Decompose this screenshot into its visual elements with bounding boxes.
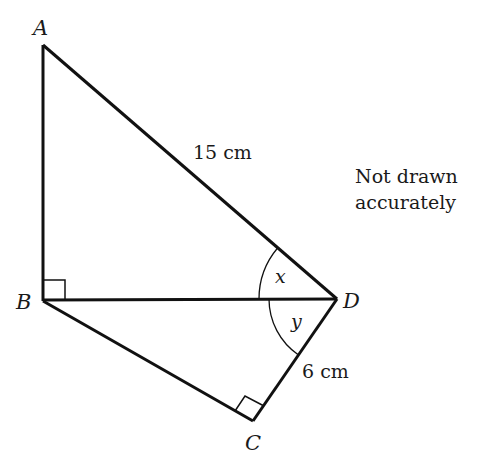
right-angle-mark-b <box>43 280 65 300</box>
geometry-figure <box>0 0 495 466</box>
measurement-cd: 6 cm <box>302 362 349 381</box>
point-label-c: C <box>245 433 261 454</box>
segment-ad <box>43 45 337 299</box>
note-line-2: accurately <box>355 189 458 215</box>
angle-label-x: x <box>275 267 286 286</box>
measurement-ad: 15 cm <box>193 143 252 162</box>
segment-bc <box>43 301 253 421</box>
point-label-d: D <box>343 291 360 312</box>
point-label-b: B <box>16 292 31 313</box>
note-line-1: Not drawn <box>355 163 458 189</box>
segment-bd <box>43 299 337 300</box>
not-drawn-accurately-note: Not drawn accurately <box>355 163 458 215</box>
point-label-a: A <box>33 18 48 39</box>
angle-label-y: y <box>291 312 302 331</box>
